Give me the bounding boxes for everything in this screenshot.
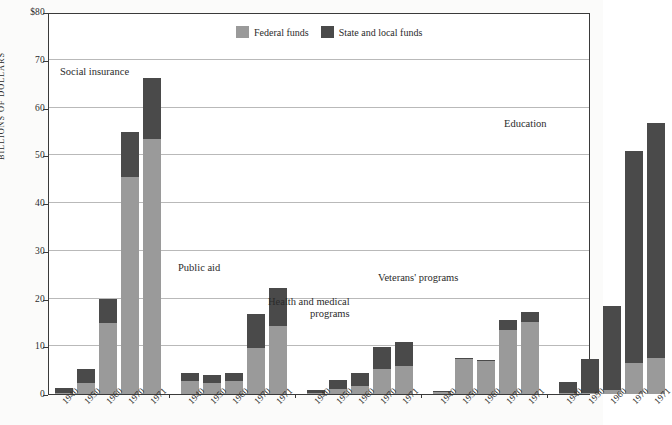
y-tick-label: 30: [0, 246, 45, 256]
bar-segment-state-local: [521, 312, 539, 322]
legend-item-state_local: State and local funds: [321, 26, 423, 38]
annotation-line: programs: [268, 308, 350, 320]
bar: [395, 342, 413, 394]
bar-segment-state-local: [181, 373, 199, 381]
legend-swatch-federal: [236, 26, 249, 38]
y-tick-label: 10: [0, 341, 45, 351]
y-tick-label: 70: [0, 55, 45, 65]
bar-segment-state-local: [373, 347, 391, 369]
bar: [647, 123, 665, 394]
y-tick-mark: [43, 395, 48, 396]
y-tick-label: 40: [0, 198, 45, 208]
bar-segment-state-local: [625, 151, 643, 363]
bar-segment-federal: [269, 326, 287, 394]
bar: [247, 314, 265, 394]
legend: Federal fundsState and local funds: [236, 26, 422, 38]
annotation-veterans-programs: Veterans' programs: [378, 272, 458, 284]
bar-segment-state-local: [99, 299, 117, 323]
bar: [99, 299, 117, 395]
bar-segment-federal: [499, 330, 517, 394]
y-tick-label: 50: [0, 150, 45, 160]
y-tick-label: 0: [0, 389, 45, 399]
gridline: [49, 11, 589, 12]
annotation-line: Health and medical: [268, 296, 350, 308]
legend-label: Federal funds: [254, 27, 309, 38]
bar-segment-state-local: [143, 78, 161, 139]
annotation-education: Education: [504, 118, 547, 130]
bar-segment-state-local: [499, 320, 517, 329]
bar-segment-federal: [99, 323, 117, 394]
y-tick-label: 60: [0, 103, 45, 113]
y-axis-title: BILLIONS OF DOLLARS: [0, 0, 6, 160]
bar-segment-state-local: [203, 375, 221, 382]
bar-segment-state-local: [77, 369, 95, 382]
bar: [603, 306, 621, 394]
legend-item-federal: Federal funds: [236, 26, 309, 38]
legend-label: State and local funds: [339, 27, 423, 38]
bar-segment-state-local: [647, 123, 665, 358]
bar: [521, 312, 539, 394]
bar-segment-state-local: [395, 342, 413, 366]
plot-area: [48, 13, 590, 395]
annotation-public-aid: Public aid: [178, 262, 220, 274]
bar-segment-federal: [121, 177, 139, 394]
bar: [625, 151, 643, 394]
bar-segment-federal: [143, 139, 161, 394]
legend-swatch-state_local: [321, 26, 334, 38]
group-separator-tick: [295, 394, 296, 398]
annotation-health-and-medical-programs: Health and medicalprograms: [268, 296, 350, 320]
group-separator-tick: [421, 394, 422, 398]
bar-series-container: [49, 14, 589, 394]
bar-segment-federal: [521, 322, 539, 394]
group-separator-tick: [547, 394, 548, 398]
bar-segment-state-local: [247, 314, 265, 348]
bar-segment-state-local: [603, 306, 621, 391]
y-tick-label: $80: [0, 7, 45, 17]
bar-segment-state-local: [121, 132, 139, 176]
bar-segment-state-local: [225, 373, 243, 381]
annotation-social-insurance: Social insurance: [60, 66, 129, 78]
bar: [143, 78, 161, 394]
group-separator-tick: [169, 394, 170, 398]
bar: [121, 132, 139, 394]
y-tick-label: 20: [0, 294, 45, 304]
bar-segment-state-local: [351, 373, 369, 386]
bar: [499, 320, 517, 394]
